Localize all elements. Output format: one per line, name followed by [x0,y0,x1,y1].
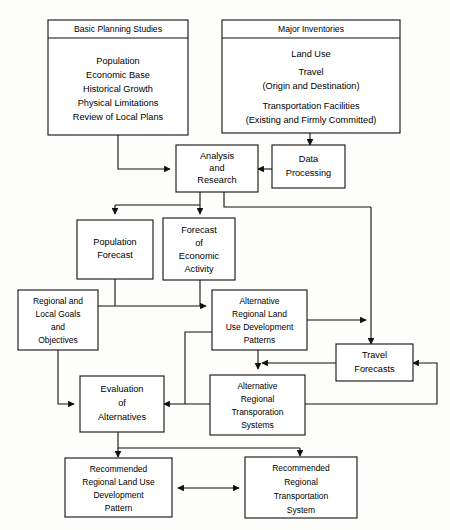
major-inventories-line-2: (Origin and Destination) [262,81,359,91]
node-recommended-transportation[interactable]: Recommended Regional Transportation Syst… [245,457,357,518]
basic-planning-studies-header: Basic Planning Studies [74,24,162,34]
node-alternative-land-use-patterns[interactable]: Alternative Regional Land Use Developmen… [212,290,307,350]
node-major-inventories[interactable]: Major Inventories Land Use Travel (Origi… [222,20,400,133]
forecast-economic-line-0: Forecast [181,225,217,235]
evaluation-line-0: Evaluation [101,384,144,394]
connector-basic-studies-to-analysis [118,135,170,169]
node-forecast-economic-activity[interactable]: Forecast of Economic Activity [163,218,235,280]
basic-planning-studies-line-4: Review of Local Plans [73,112,164,122]
node-regional-local-goals[interactable]: Regional and Local Goals and Objectives [18,290,98,350]
evaluation-line-2: Alternatives [98,412,146,422]
population-forecast-line-0: Population [93,237,136,247]
basic-planning-studies-line-1: Economic Base [86,70,150,80]
connector-goals-to-evaluation [58,350,74,404]
node-population-forecast[interactable]: Population Forecast [77,220,153,279]
major-inventories-line-1: Travel [298,67,323,77]
basic-planning-studies-line-0: Population [96,56,139,66]
node-recommended-land-use[interactable]: Recommended Regional Land Use Developmen… [65,458,172,517]
connector-analysis-to-forecasts-bus [115,192,200,205]
analysis-and-research-line-1: and [209,163,224,173]
recommended-land-use-line-1: Regional Land Use [82,477,155,487]
node-data-processing[interactable]: Data Processing [272,145,345,188]
forecast-economic-line-2: Economic [179,251,220,261]
travel-forecasts-line-0: Travel [362,350,387,360]
flowchart-canvas: Basic Planning Studies Population Econom… [0,0,450,530]
major-inventories-header: Major Inventories [278,24,344,34]
data-processing-line-1: Processing [286,168,331,178]
major-inventories-line-4: (Existing and Firmly Committed) [246,115,377,125]
recommended-land-use-line-2: Development [93,490,144,500]
data-processing-line-0: Data [299,154,319,164]
flowchart-diagram: Basic Planning Studies Population Econom… [0,0,450,530]
recommended-transportation-line-1: Regional [284,477,318,487]
node-analysis-and-research[interactable]: Analysis and Research [176,145,258,192]
travel-forecasts-line-1: Forecasts [354,364,395,374]
recommended-transportation-line-3: System [287,505,315,515]
recommended-land-use-line-0: Recommended [90,464,148,474]
alt-transportation-line-3: Systems [241,420,274,430]
alt-land-use-line-0: Alternative [239,296,279,306]
alt-transportation-line-1: Regional [241,394,275,404]
basic-planning-studies-line-2: Historical Growth [83,84,153,94]
major-inventories-line-0: Land Use [291,49,330,59]
regional-goals-line-3: Objectives [38,335,78,345]
regional-goals-line-0: Regional and [33,296,83,306]
alt-land-use-line-3: Patterns [244,335,276,345]
recommended-transportation-line-0: Recommended [272,463,330,473]
alt-transportation-line-2: Transporation [231,407,283,417]
evaluation-line-1: of [118,398,126,408]
forecast-economic-line-1: of [195,238,203,248]
population-forecast-line-1: Forecast [97,250,133,260]
regional-goals-line-2: and [51,322,65,332]
forecast-economic-line-3: Activity [184,264,214,274]
alt-land-use-line-1: Regional Land [232,309,287,319]
basic-planning-studies-line-3: Physical Limitations [78,98,159,108]
analysis-and-research-line-2: Research [197,175,236,185]
analysis-and-research-line-0: Analysis [200,151,235,161]
major-inventories-line-3: Transportation Facilities [262,101,360,111]
node-alternative-transportation-systems[interactable]: Alternative Regional Transporation Syste… [210,375,305,435]
recommended-land-use-line-3: Pattern [105,503,133,513]
regional-goals-line-1: Local Goals [36,309,81,319]
connector-landuse-left-tap-down [185,332,212,404]
recommended-transportation-line-2: Transportation [274,491,329,501]
node-evaluation-of-alternatives[interactable]: Evaluation of Alternatives [80,376,164,432]
node-basic-planning-studies[interactable]: Basic Planning Studies Population Econom… [48,20,188,135]
alt-transportation-line-0: Alternative [237,381,277,391]
node-travel-forecasts[interactable]: Travel Forecasts [336,344,413,381]
alt-land-use-line-2: Use Development [226,322,294,332]
connector-analysis-to-right-bus [224,192,371,207]
